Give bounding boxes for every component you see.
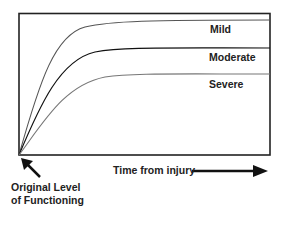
mild-label: Mild [210,23,231,35]
x-axis-label: Time from injury [113,164,195,176]
origin-arrow-icon [21,158,40,177]
origin-line-2: of Functioning [11,194,84,207]
time-arrow-icon [192,165,268,177]
origin-annotation: Original Level of Functioning [11,181,84,207]
origin-line-1: Original Level [11,181,84,194]
moderate-curve [19,48,270,155]
severe-label: Severe [209,78,243,90]
moderate-label: Moderate [209,51,256,63]
